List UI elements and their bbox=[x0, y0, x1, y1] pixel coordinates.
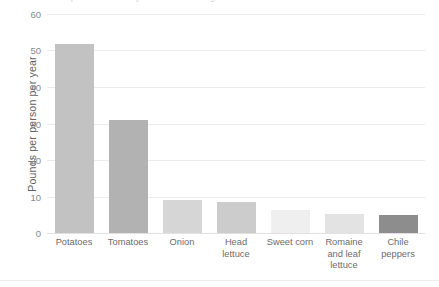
bar-slot bbox=[101, 14, 155, 233]
bar[interactable] bbox=[109, 120, 148, 233]
bar[interactable] bbox=[379, 215, 418, 233]
bar-slot bbox=[317, 14, 371, 233]
y-tick-label-40: 40 bbox=[30, 81, 41, 92]
bar[interactable] bbox=[55, 44, 94, 233]
x-axis-label: Chile peppers bbox=[371, 237, 425, 272]
bar-slot bbox=[263, 14, 317, 233]
y-tick-label-50: 50 bbox=[30, 45, 41, 56]
gridline-0: 0 bbox=[47, 233, 425, 234]
bar-slot bbox=[47, 14, 101, 233]
cut-off-title: Per capita availability of selected vege… bbox=[40, 0, 400, 2]
bar-slot bbox=[371, 14, 425, 233]
x-axis-category-labels: PotatoesTomatoesOnionHead lettuceSweet c… bbox=[47, 237, 425, 272]
plot-area: 0102030405060 bbox=[47, 14, 425, 233]
footer-divider bbox=[0, 280, 439, 281]
x-axis-label: Romaine and leaf lettuce bbox=[317, 237, 371, 272]
x-axis-label: Sweet corn bbox=[263, 237, 317, 272]
x-axis-label: Head lettuce bbox=[209, 237, 263, 272]
bar[interactable] bbox=[163, 200, 202, 233]
bar-slot bbox=[209, 14, 263, 233]
x-axis-label: Tomatoes bbox=[101, 237, 155, 272]
x-axis-label: Onion bbox=[155, 237, 209, 272]
y-tick-label-30: 30 bbox=[30, 118, 41, 129]
chart-page: Per capita availability of selected vege… bbox=[0, 0, 439, 287]
y-tick-label-20: 20 bbox=[30, 154, 41, 165]
bar[interactable] bbox=[271, 210, 310, 233]
bar[interactable] bbox=[325, 214, 364, 233]
y-tick-label-60: 60 bbox=[30, 9, 41, 20]
x-axis-label: Potatoes bbox=[47, 237, 101, 272]
bar-slot bbox=[155, 14, 209, 233]
y-tick-label-0: 0 bbox=[36, 228, 41, 239]
bar-series bbox=[47, 14, 425, 233]
bar[interactable] bbox=[217, 202, 256, 233]
y-tick-label-10: 10 bbox=[30, 191, 41, 202]
